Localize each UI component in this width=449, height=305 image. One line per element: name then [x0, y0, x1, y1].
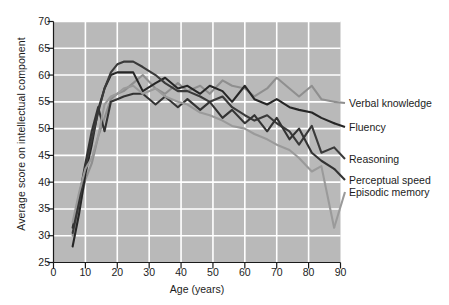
- x-tick-label: 40: [168, 267, 194, 278]
- legend-item-perceptual-speed: Perceptual speed: [349, 174, 431, 186]
- y-tick-label: 35: [24, 203, 50, 214]
- x-tick-label: 90: [328, 267, 354, 278]
- x-axis-tick-labels: 0102030405060708090: [0, 267, 449, 283]
- chart-figure: Average score on intellectual component …: [0, 0, 449, 305]
- legend-leader-line: [334, 102, 345, 103]
- x-tick-label: 50: [200, 267, 226, 278]
- x-tick-label: 60: [232, 267, 258, 278]
- y-tick-label: 40: [24, 177, 50, 188]
- legend-item-fluency: Fluency: [349, 121, 386, 133]
- y-tick-label: 70: [24, 16, 50, 27]
- x-tick-label: 10: [72, 267, 98, 278]
- x-tick-label: 80: [296, 267, 322, 278]
- y-axis-tick-labels: 25303540455055606570: [12, 0, 50, 305]
- x-tick-label: 70: [264, 267, 290, 278]
- y-tick-label: 60: [24, 70, 50, 81]
- y-tick-label: 30: [24, 230, 50, 241]
- legend-item-reasoning: Reasoning: [349, 153, 399, 165]
- y-tick-label: 45: [24, 150, 50, 161]
- x-tick-label: 0: [41, 267, 67, 278]
- x-axis-title: Age (years): [53, 283, 341, 295]
- legend-item-episodic-memory: Episodic memory: [349, 186, 430, 198]
- legend-item-verbal-knowledge: Verbal knowledge: [349, 97, 432, 109]
- y-tick-label: 55: [24, 96, 50, 107]
- x-tick-label: 30: [136, 267, 162, 278]
- y-tick-label: 50: [24, 123, 50, 134]
- x-tick-label: 20: [104, 267, 130, 278]
- y-tick-label: 65: [24, 43, 50, 54]
